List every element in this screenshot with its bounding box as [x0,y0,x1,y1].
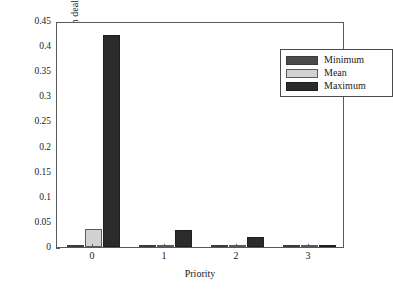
x-tick-label: 3 [288,250,328,261]
legend-swatch-minimum [286,56,318,65]
chart-legend: MinimumMeanMaximum [280,49,393,97]
bar-minimum-priority-2 [211,245,228,247]
x-tick-label: 2 [216,250,256,261]
y-tick-label: 0.2 [0,142,51,152]
legend-label-minimum: Minimum [324,55,364,65]
y-tick-label: 0.25 [0,116,51,126]
legend-item-minimum: Minimum [286,54,387,66]
x-tick-label: 1 [144,250,184,261]
x-tick-mark [308,244,309,248]
bar-mean-priority-3 [301,245,318,247]
bar-mean-priority-2 [229,245,246,247]
bar-maximum-priority-3 [319,245,336,248]
bar-maximum-priority-1 [175,230,192,247]
legend-swatch-mean [286,69,318,78]
bar-mean-priority-1 [157,245,174,247]
plot-area: MinimumMeanMaximum [56,22,344,248]
y-tick-label: 0.1 [0,192,51,202]
bar-minimum-priority-1 [139,245,156,247]
legend-label-mean: Mean [324,68,347,78]
x-tick-label: 0 [72,250,112,261]
x-tick-mark [92,244,93,248]
y-tick-label: 0.05 [0,217,51,227]
bar-minimum-priority-3 [283,245,300,247]
x-tick-mark [236,244,237,248]
legend-label-maximum: Maximum [324,81,366,91]
bar-maximum-priority-0 [103,35,120,247]
legend-swatch-maximum [286,82,318,91]
y-tick-label: 0.3 [0,91,51,101]
legend-item-mean: Mean [286,67,387,79]
bar-maximum-priority-2 [247,237,264,247]
y-tick-label: 0.4 [0,41,51,51]
y-tick-label: 0.35 [0,66,51,76]
y-tick-label: 0.15 [0,167,51,177]
legend-item-maximum: Maximum [286,80,387,92]
x-axis-title: Priority [56,268,344,279]
x-tick-mark [164,244,165,248]
y-tick-label: 0.45 [0,16,51,26]
bar-mean-priority-0 [85,229,102,247]
y-tick-label: 0 [0,242,51,252]
bar-minimum-priority-0 [67,245,84,247]
